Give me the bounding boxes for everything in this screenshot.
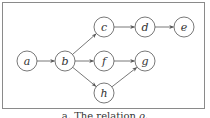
nodes: abcdefgh	[17, 17, 194, 103]
node-label: h	[100, 87, 107, 100]
node-label: d	[141, 21, 148, 34]
node-e: e	[174, 17, 194, 37]
node-h: h	[94, 83, 114, 103]
edge-b-c	[73, 34, 97, 55]
node-g: g	[135, 51, 155, 71]
node-d: d	[135, 17, 155, 37]
node-f: f	[94, 51, 114, 71]
edge-b-h	[73, 67, 96, 86]
caption-prefix: a. The relation	[62, 110, 139, 118]
node-label: c	[101, 21, 107, 34]
figure-caption: a. The relation ρ.	[0, 110, 210, 118]
relation-graph: abcdefgh	[0, 0, 210, 118]
node-label: b	[61, 55, 68, 68]
node-label: a	[24, 55, 31, 68]
node-b: b	[55, 51, 75, 71]
caption-suffix: .	[145, 110, 148, 118]
node-label: e	[181, 21, 188, 34]
node-a: a	[17, 51, 37, 71]
node-label: g	[141, 55, 148, 68]
edge-h-g	[112, 67, 137, 86]
node-c: c	[94, 17, 114, 37]
